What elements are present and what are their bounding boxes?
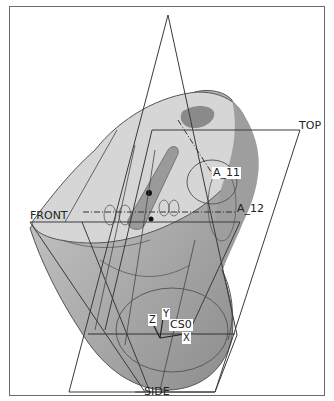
cs0-x-label: X xyxy=(182,332,191,344)
cs0-label[interactable]: CS0 xyxy=(169,319,193,331)
part-body[interactable] xyxy=(30,90,259,390)
model-graphics[interactable] xyxy=(0,0,334,401)
datum-axis-a12-label[interactable]: A_12 xyxy=(237,203,264,215)
model-viewport[interactable]: TOP FRONT SIDE A_11 A_12 CS0 Z Y X xyxy=(0,0,334,401)
datum-plane-top-label[interactable]: TOP xyxy=(299,120,321,132)
cs0-y-label: Y xyxy=(162,308,170,320)
datum-plane-front-label[interactable]: FRONT xyxy=(30,210,68,222)
datum-axis-a11-label[interactable]: A_11 xyxy=(212,167,241,179)
cs0-z-label: Z xyxy=(148,314,157,326)
datum-point[interactable] xyxy=(149,217,154,222)
datum-plane-side-label[interactable]: SIDE xyxy=(144,386,170,398)
